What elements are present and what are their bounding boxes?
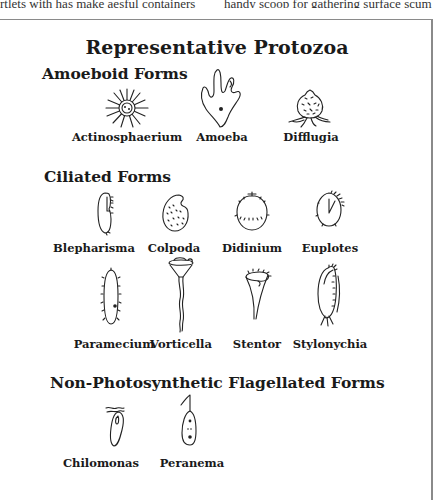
header-fragment-right: handy scoop for gathering surface scum xyxy=(224,0,432,8)
paramecium-drawing-icon xyxy=(100,268,122,326)
difflugia-drawing-icon xyxy=(288,89,332,129)
actinosphaerium-drawing-icon xyxy=(105,88,149,128)
label-amoeba: Amoeba xyxy=(196,130,248,144)
label-euplotes: Euplotes xyxy=(302,241,358,255)
didinium-drawing-icon xyxy=(234,190,270,232)
label-stylonychia: Stylonychia xyxy=(293,337,368,351)
stylonychia-drawing-icon xyxy=(314,262,344,328)
stentor-drawing-icon xyxy=(243,269,271,321)
page-header-fragment: rtlets with has make aesful containers h… xyxy=(0,0,434,8)
vorticella-drawing-icon xyxy=(166,257,196,333)
label-actinosphaerium: Actinosphaerium xyxy=(72,130,182,144)
label-difflugia: Difflugia xyxy=(283,130,338,144)
label-vorticella: Vorticella xyxy=(150,337,212,351)
label-didinium: Didinium xyxy=(222,241,282,255)
label-blepharisma: Blepharisma xyxy=(53,241,135,255)
label-chilomonas: Chilomonas xyxy=(63,456,139,470)
figure-title: Representative Protozoa xyxy=(0,36,434,58)
chilomonas-drawing-icon xyxy=(104,404,128,448)
label-colpoda: Colpoda xyxy=(148,241,200,255)
amoeba-drawing-icon xyxy=(200,69,242,129)
section-heading-ciliated: Ciliated Forms xyxy=(44,167,171,186)
label-stentor: Stentor xyxy=(233,337,281,351)
peranema-drawing-icon xyxy=(178,393,202,449)
euplotes-drawing-icon xyxy=(315,191,345,229)
label-paramecium: Paramecium xyxy=(74,337,155,351)
header-fragment-left: rtlets with has make aesful containers xyxy=(0,0,195,8)
colpoda-drawing-icon xyxy=(161,193,191,233)
label-peranema: Peranema xyxy=(160,456,224,470)
blepharisma-drawing-icon xyxy=(96,191,118,235)
section-heading-amoeboid: Amoeboid Forms xyxy=(42,64,188,83)
section-heading-flagellated: Non-Photosynthetic Flagellated Forms xyxy=(50,373,385,392)
